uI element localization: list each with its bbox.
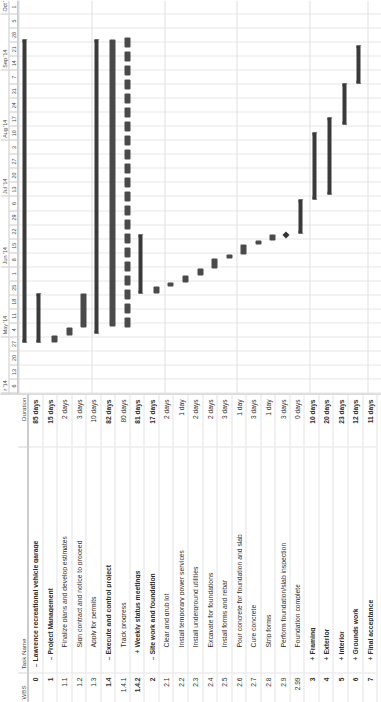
- gantt-recurring-task-bar[interactable]: [124, 163, 130, 173]
- gantt-summary-bar[interactable]: [342, 83, 346, 124]
- gantt-recurring-task-bar[interactable]: [124, 275, 130, 285]
- table-row[interactable]: 2.6·Pour concrete for foundation and sla…: [232, 394, 247, 702]
- gantt-recurring-task-bar[interactable]: [124, 289, 130, 299]
- table-row[interactable]: 5+Interior23 days: [333, 394, 348, 702]
- table-row[interactable]: 2.1·Clear and grub lot2 days: [159, 394, 174, 702]
- gantt-task-bar[interactable]: [80, 293, 86, 327]
- gantt-recurring-task-bar[interactable]: [124, 177, 130, 187]
- expand-icon[interactable]: +: [366, 654, 373, 662]
- gantt-summary-bar[interactable]: [298, 199, 302, 233]
- timeline-week-label: 11: [9, 309, 17, 323]
- table-row[interactable]: 2.2·Install temporary power services1 da…: [173, 394, 188, 702]
- gantt-recurring-task-bar[interactable]: [124, 65, 130, 75]
- gantt-summary-bar[interactable]: [94, 39, 98, 332]
- table-row[interactable]: 2.3·Install underground utilities2 days: [188, 394, 203, 702]
- expand-icon[interactable]: +: [337, 654, 344, 662]
- gantt-task-bar[interactable]: [269, 234, 275, 240]
- gantt-task-bar[interactable]: [226, 254, 232, 258]
- column-header-task-name[interactable]: Task Name: [18, 446, 27, 672]
- gantt-recurring-task-bar[interactable]: [124, 219, 130, 229]
- gantt-task-bar[interactable]: [255, 240, 261, 244]
- gantt-summary-bar[interactable]: [312, 132, 316, 199]
- gantt-task-bar[interactable]: [167, 282, 173, 286]
- collapse-icon[interactable]: –: [46, 654, 53, 662]
- cell-wbs: 2.6: [232, 672, 246, 702]
- gantt-area[interactable]: r '14May '14Jun '14Jul '14Aug '14Sep '14…: [0, 0, 381, 393]
- table-row[interactable]: 2.5·Install forms and rebar3 days: [217, 394, 232, 702]
- timeline-week-label: 20: [9, 168, 17, 182]
- table-row[interactable]: 3+Framing10 days: [304, 394, 319, 702]
- gantt-recurring-task-bar[interactable]: [124, 79, 130, 89]
- table-row[interactable]: 2.99·Foundation complete0 days: [290, 394, 305, 702]
- gantt-recurring-task-bar[interactable]: [124, 317, 130, 327]
- cell-duration: 10 days: [304, 394, 318, 446]
- timeline-week-label: 20: [9, 351, 17, 365]
- table-row[interactable]: 2.7·Cure concrete3 days: [246, 394, 261, 702]
- collapse-icon[interactable]: –: [31, 661, 38, 669]
- table-row[interactable]: 1.2·Sign contract and notice to proceed3…: [72, 394, 87, 702]
- collapse-icon[interactable]: –: [104, 654, 111, 662]
- table-row[interactable]: 1.1·Finalize plans and develop estimates…: [57, 394, 72, 702]
- column-header-duration[interactable]: Duration: [18, 394, 27, 446]
- gantt-summary-bar[interactable]: [327, 117, 331, 194]
- expand-icon[interactable]: +: [308, 654, 315, 662]
- gantt-summary-bar[interactable]: [36, 293, 40, 342]
- table-row[interactable]: 2.9·Perform foundation/slab inspection3 …: [275, 394, 290, 702]
- table-row[interactable]: 2–Site work and foundation17 days: [144, 394, 159, 702]
- gantt-row: [163, 0, 178, 393]
- cell-wbs: 2.2: [173, 672, 187, 702]
- gantt-summary-bar[interactable]: [138, 234, 142, 293]
- gantt-recurring-task-bar[interactable]: [124, 107, 130, 117]
- column-header-wbs[interactable]: WBS: [18, 672, 27, 702]
- task-name-label: Execute and control project: [104, 564, 111, 654]
- gantt-recurring-task-bar[interactable]: [124, 149, 130, 159]
- table-row[interactable]: 1.4.2+Weekly status meetings81 days: [130, 394, 145, 702]
- gantt-milestone-marker[interactable]: [282, 231, 289, 238]
- expand-icon[interactable]: +: [351, 654, 358, 662]
- gantt-recurring-task-bar[interactable]: [124, 303, 130, 313]
- gantt-task-bar[interactable]: [153, 286, 159, 293]
- cell-duration: 80 days: [115, 394, 129, 446]
- expand-icon[interactable]: +: [133, 647, 140, 655]
- task-name-label: Framing: [308, 627, 315, 654]
- gantt-task-bar[interactable]: [197, 268, 203, 275]
- gantt-recurring-task-bar[interactable]: [124, 37, 130, 47]
- timeline-week-label: 13: [9, 182, 17, 196]
- gantt-recurring-task-bar[interactable]: [124, 191, 130, 201]
- gantt-recurring-task-bar[interactable]: [124, 135, 130, 145]
- gantt-task-bar[interactable]: [182, 275, 188, 282]
- gantt-bars: [18, 0, 345, 393]
- cell-wbs: 1.4.2: [130, 672, 144, 702]
- timeline-week-label: 6: [9, 379, 17, 393]
- table-row[interactable]: 0–Lawrence recreational vehicle garage85…: [28, 394, 43, 702]
- table-row[interactable]: 1–Project Management15 days: [43, 394, 58, 702]
- gantt-recurring-task-bar[interactable]: [124, 247, 130, 257]
- expand-icon[interactable]: +: [322, 654, 329, 662]
- gantt-task-bar[interactable]: [109, 39, 115, 325]
- gantt-task-bar[interactable]: [211, 258, 217, 268]
- timeline-week-label: 7: [9, 70, 17, 84]
- gantt-task-bar[interactable]: [51, 335, 57, 342]
- gantt-task-bar[interactable]: [66, 327, 72, 335]
- gantt-summary-bar[interactable]: [356, 45, 360, 83]
- gantt-recurring-task-bar[interactable]: [124, 93, 130, 103]
- table-row[interactable]: 2.4·Excavate for foundations2 days: [203, 394, 218, 702]
- gantt-recurring-task-bar[interactable]: [124, 51, 130, 61]
- table-row[interactable]: 1.3·Apply for permits10 days: [86, 394, 101, 702]
- table-row[interactable]: 4+Exterior20 days: [319, 394, 334, 702]
- table-row[interactable]: 1.4.1·Track progress80 days: [115, 394, 130, 702]
- collapse-icon[interactable]: –: [148, 654, 155, 662]
- gantt-summary-bar[interactable]: [22, 39, 26, 342]
- table-row[interactable]: 7+Final acceptance11 days: [363, 394, 378, 702]
- gantt-recurring-task-bar[interactable]: [124, 121, 130, 131]
- cell-task-name: +Framing: [304, 446, 318, 672]
- table-row[interactable]: 1.4–Execute and control project82 days: [101, 394, 116, 702]
- cell-duration: 2 days: [159, 394, 173, 446]
- gantt-task-bar[interactable]: [240, 244, 246, 254]
- table-row[interactable]: 2.8·Strip forms1 day: [261, 394, 276, 702]
- gantt-recurring-task-bar[interactable]: [124, 233, 130, 243]
- gantt-row: [207, 0, 222, 393]
- gantt-recurring-task-bar[interactable]: [124, 261, 130, 271]
- gantt-recurring-task-bar[interactable]: [124, 205, 130, 215]
- table-row[interactable]: 6+Grounds work12 days: [348, 394, 363, 702]
